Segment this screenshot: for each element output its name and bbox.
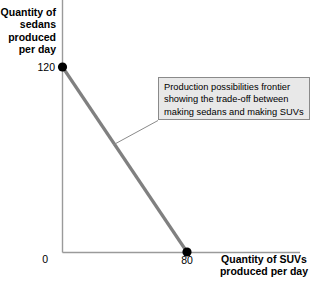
annotation-leader-line xyxy=(113,121,158,146)
x-axis-title: Quantity of SUVs produced per day xyxy=(203,253,325,278)
annotation-callout-text: Production possibilities frontier showin… xyxy=(164,81,305,118)
y-axis-tick-label-120: 120 xyxy=(10,61,55,73)
annotation-callout-box: Production possibilities frontier showin… xyxy=(158,77,310,120)
ppf-chart-figure: Quantity of sedans produced per day Quan… xyxy=(0,0,325,286)
origin-label: 0 xyxy=(34,253,48,265)
data-point-sedans-max xyxy=(58,62,67,71)
y-axis-title: Quantity of sedans produced per day xyxy=(0,6,56,56)
x-axis-tick-label-80: 80 xyxy=(173,254,201,266)
